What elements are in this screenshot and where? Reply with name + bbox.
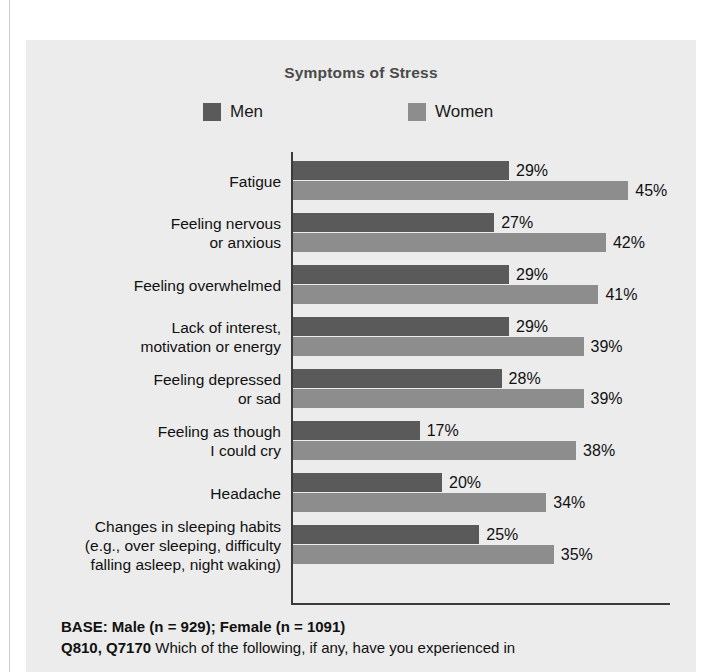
- bar-value-label: 39%: [584, 390, 623, 408]
- bar-group: Feeling overwhelmed29%41%: [26, 259, 696, 311]
- category-label: Headache: [21, 484, 281, 503]
- bar-men: [293, 473, 442, 492]
- bar-value-label: 41%: [598, 286, 637, 304]
- bar-row: 17%: [293, 421, 576, 440]
- category-label: Feeling depressed or sad: [21, 370, 281, 408]
- bar-row: 41%: [293, 285, 598, 304]
- bar-women: [293, 441, 576, 460]
- bar-pair: 25%35%: [293, 525, 554, 564]
- category-label: Fatigue: [21, 172, 281, 191]
- category-label: Feeling overwhelmed: [21, 276, 281, 295]
- bar-men: [293, 525, 479, 544]
- chart-panel: Symptoms of Stress Men Women Fatigue29%4…: [26, 40, 696, 672]
- bar-value-label: 17%: [420, 422, 459, 440]
- bar-group: Fatigue29%45%: [26, 155, 696, 207]
- bar-value-label: 25%: [479, 526, 518, 544]
- bar-men: [293, 213, 494, 232]
- category-label: Feeling nervous or anxious: [21, 214, 281, 252]
- legend-label-women: Women: [435, 102, 493, 122]
- bar-group: Feeling as though I could cry17%38%: [26, 415, 696, 467]
- bar-row: 45%: [293, 181, 628, 200]
- bar-row: 27%: [293, 213, 606, 232]
- bar-women: [293, 285, 598, 304]
- bar-row: 20%: [293, 473, 546, 492]
- bar-row: 29%: [293, 317, 584, 336]
- bar-row: 35%: [293, 545, 554, 564]
- bar-women: [293, 181, 628, 200]
- bar-value-label: 29%: [509, 162, 548, 180]
- bar-group: Feeling depressed or sad28%39%: [26, 363, 696, 415]
- bar-pair: 29%41%: [293, 265, 598, 304]
- bar-row: 39%: [293, 337, 584, 356]
- footnote-question-text: Which of the following, if any, have you…: [155, 639, 515, 656]
- bar-group: Headache20%34%: [26, 467, 696, 519]
- bar-pair: 27%42%: [293, 213, 606, 252]
- bar-row: 29%: [293, 265, 598, 284]
- bar-women: [293, 337, 584, 356]
- plot-area: Fatigue29%45%Feeling nervous or anxious2…: [26, 152, 696, 604]
- bar-women: [293, 233, 606, 252]
- bar-men: [293, 265, 509, 284]
- bar-men: [293, 421, 420, 440]
- bar-row: 28%: [293, 369, 584, 388]
- bar-value-label: 35%: [554, 546, 593, 564]
- bar-men: [293, 369, 502, 388]
- bar-value-label: 20%: [442, 474, 481, 492]
- bar-value-label: 42%: [606, 234, 645, 252]
- footnote-question-code: Q810, Q7170: [61, 639, 151, 656]
- legend-item-men: Men: [203, 102, 263, 122]
- footnote-question: Q810, Q7170 Which of the following, if a…: [61, 638, 701, 657]
- bar-pair: 20%34%: [293, 473, 546, 512]
- bar-value-label: 29%: [509, 318, 548, 336]
- category-label: Feeling as though I could cry: [21, 422, 281, 460]
- bar-row: 29%: [293, 161, 628, 180]
- bar-pair: 29%45%: [293, 161, 628, 200]
- legend-swatch-men: [203, 103, 221, 121]
- axis-baseline: [291, 603, 670, 605]
- chart-legend: Men Women: [26, 102, 696, 128]
- bar-men: [293, 317, 509, 336]
- bar-row: 25%: [293, 525, 554, 544]
- bar-row: 42%: [293, 233, 606, 252]
- page-edge-rule: [9, 0, 10, 672]
- footnotes: BASE: Male (n = 929); Female (n = 1091) …: [61, 618, 701, 657]
- bar-group: Changes in sleeping habits (e.g., over s…: [26, 519, 696, 571]
- legend-label-men: Men: [230, 102, 263, 122]
- bar-value-label: 29%: [509, 266, 548, 284]
- legend-swatch-women: [408, 103, 426, 121]
- bar-pair: 17%38%: [293, 421, 576, 460]
- legend-item-women: Women: [408, 102, 493, 122]
- bar-row: 39%: [293, 389, 584, 408]
- bar-value-label: 38%: [576, 442, 615, 460]
- bar-pair: 28%39%: [293, 369, 584, 408]
- category-label: Changes in sleeping habits (e.g., over s…: [21, 517, 281, 574]
- bar-men: [293, 161, 509, 180]
- category-label: Lack of interest, motivation or energy: [21, 318, 281, 356]
- bar-group: Lack of interest, motivation or energy29…: [26, 311, 696, 363]
- chart-title: Symptoms of Stress: [26, 64, 696, 82]
- bar-value-label: 39%: [584, 338, 623, 356]
- bar-pair: 29%39%: [293, 317, 584, 356]
- bar-women: [293, 389, 584, 408]
- bar-women: [293, 545, 554, 564]
- bar-group: Feeling nervous or anxious27%42%: [26, 207, 696, 259]
- bar-row: 38%: [293, 441, 576, 460]
- footnote-base: BASE: Male (n = 929); Female (n = 1091): [61, 618, 701, 635]
- bar-value-label: 28%: [502, 370, 541, 388]
- bar-women: [293, 493, 546, 512]
- bar-value-label: 27%: [494, 214, 533, 232]
- bar-row: 34%: [293, 493, 546, 512]
- bar-value-label: 45%: [628, 182, 667, 200]
- bar-value-label: 34%: [546, 494, 585, 512]
